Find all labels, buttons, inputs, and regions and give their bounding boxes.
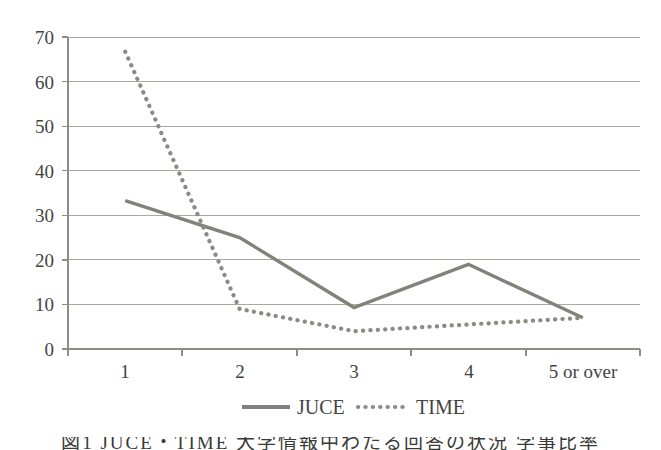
line-chart: 70 60 50 40 30 20 10 0 1 2 3 4 5 or over… — [0, 0, 661, 450]
y-label-20: 20 — [35, 250, 54, 271]
y-label-70: 70 — [35, 27, 54, 48]
y-label-10: 10 — [35, 294, 54, 315]
plot-area-background — [68, 37, 640, 349]
y-tick-marks — [62, 37, 68, 349]
x-label-5-or-over: 5 or over — [549, 361, 618, 382]
figure-caption-clip: 図1 JUCE・TIME 大学情報中わたる回答の状況 学事比率 — [0, 437, 661, 450]
chart-legend: JUCE TIME — [242, 396, 465, 418]
figure-caption: 図1 JUCE・TIME 大学情報中わたる回答の状況 学事比率 — [0, 437, 661, 450]
x-tick-marks — [68, 349, 640, 356]
y-label-30: 30 — [35, 205, 54, 226]
y-label-60: 60 — [35, 72, 54, 93]
y-axis-labels: 70 60 50 40 30 20 10 0 — [35, 27, 54, 360]
x-label-2: 2 — [235, 361, 245, 382]
x-label-1: 1 — [120, 361, 130, 382]
x-label-4: 4 — [464, 361, 474, 382]
y-label-40: 40 — [35, 161, 54, 182]
legend-label-time: TIME — [416, 396, 465, 418]
figure-container: 70 60 50 40 30 20 10 0 1 2 3 4 5 or over… — [0, 0, 661, 450]
x-label-3: 3 — [349, 361, 359, 382]
y-label-50: 50 — [35, 116, 54, 137]
y-label-0: 0 — [45, 339, 55, 360]
legend-label-juce: JUCE — [297, 396, 345, 418]
x-axis-labels: 1 2 3 4 5 or over — [120, 361, 618, 382]
